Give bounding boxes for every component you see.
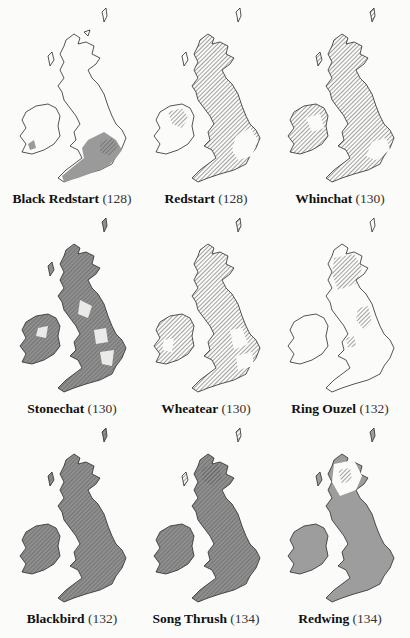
uk-map-icon [4, 0, 140, 190]
map-caption: Song Thrush (134) [138, 611, 274, 627]
map-caption: Redstart (128) [138, 191, 274, 207]
map-song-thrush: Song Thrush (134) [138, 420, 274, 632]
map-caption: Stonechat (130) [4, 401, 140, 417]
map-redwing: Redwing (134) [272, 420, 408, 632]
map-blackbird: Blackbird (132) [4, 420, 140, 632]
uk-map-icon [4, 420, 140, 610]
map-ring-ouzel: Ring Ouzel (132) [272, 210, 408, 422]
map-redstart: Redstart (128) [138, 0, 274, 212]
map-whinchat: Whinchat (130) [272, 0, 408, 212]
uk-map-icon [272, 210, 408, 400]
map-caption: Whinchat (130) [272, 191, 408, 207]
uk-map-icon [272, 420, 408, 610]
map-black-redstart: Black Redstart (128) [4, 0, 140, 212]
uk-map-icon [138, 210, 274, 400]
uk-map-icon [138, 0, 274, 190]
map-caption: Blackbird (132) [4, 611, 140, 627]
uk-map-icon [272, 0, 408, 190]
uk-map-icon [138, 420, 274, 610]
uk-map-icon [4, 210, 140, 400]
map-caption: Ring Ouzel (132) [272, 401, 408, 417]
map-wheatear: Wheatear (130) [138, 210, 274, 422]
map-caption: Wheatear (130) [138, 401, 274, 417]
map-grid: Black Redstart (128) Redstart (128) Whin… [0, 0, 410, 638]
map-caption: Redwing (134) [272, 611, 408, 627]
map-stonechat: Stonechat (130) [4, 210, 140, 422]
map-caption: Black Redstart (128) [4, 191, 140, 207]
